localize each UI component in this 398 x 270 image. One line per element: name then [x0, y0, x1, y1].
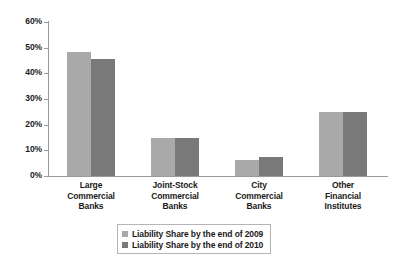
- bar-chart: 0%10%20%30%40%50%60% LargeCommercialBank…: [0, 0, 398, 270]
- bar: [235, 160, 259, 176]
- category-label-line: Other: [293, 180, 393, 191]
- bar: [151, 138, 175, 176]
- legend-label: Liability Share by the end of 2009: [132, 229, 263, 239]
- y-axis-tick: [44, 176, 49, 177]
- bar-group: [319, 22, 367, 176]
- y-axis-tick-label: 10%: [0, 145, 42, 154]
- bar: [319, 112, 343, 176]
- bar-group: [67, 22, 115, 176]
- bar-group: [235, 22, 283, 176]
- bar: [67, 52, 91, 176]
- legend-swatch-icon: [122, 231, 128, 237]
- legend-item: Liability Share by the end of 2010: [122, 239, 263, 250]
- y-axis-tick-label: 40%: [0, 68, 42, 77]
- y-axis-tick-label: 60%: [0, 17, 42, 26]
- category-label-line: Institutes: [293, 201, 393, 212]
- bar-group: [151, 22, 199, 176]
- bar: [175, 138, 199, 177]
- category-label: OtherFinancialInstitutes: [293, 180, 393, 212]
- y-axis-tick-label: 50%: [0, 43, 42, 52]
- category-label-line: Financial: [293, 191, 393, 202]
- bar: [91, 59, 115, 176]
- legend-swatch-icon: [122, 242, 128, 248]
- plot-area: [49, 22, 385, 176]
- bar: [343, 112, 367, 176]
- y-axis-tick-label: 20%: [0, 120, 42, 129]
- legend-item: Liability Share by the end of 2009: [122, 228, 263, 239]
- y-axis-tick-label: 30%: [0, 94, 42, 103]
- bar: [259, 157, 283, 177]
- y-axis-tick-label: 0%: [0, 171, 42, 180]
- x-axis-line: [48, 176, 388, 177]
- chart-legend: Liability Share by the end of 2009 Liabi…: [117, 224, 271, 254]
- legend-label: Liability Share by the end of 2010: [132, 240, 263, 250]
